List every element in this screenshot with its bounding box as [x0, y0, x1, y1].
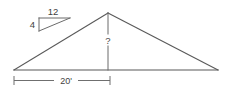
height-measure-group: ? [105, 13, 110, 70]
main-triangle [14, 13, 218, 70]
base-dimension-group: 20' [14, 76, 110, 86]
diagram-canvas: ? 12 4 20' [0, 0, 230, 92]
base-length-label: 20' [60, 76, 72, 86]
slope-hypotenuse-line [39, 18, 70, 31]
slope-indicator-triangle [39, 18, 70, 31]
geometry-diagram: ? 12 4 20' [0, 0, 230, 92]
slope-rise-label: 4 [30, 19, 35, 30]
unknown-height-label: ? [105, 35, 110, 46]
roof-right-slope-line [108, 13, 218, 70]
slope-run-label: 12 [48, 6, 59, 17]
